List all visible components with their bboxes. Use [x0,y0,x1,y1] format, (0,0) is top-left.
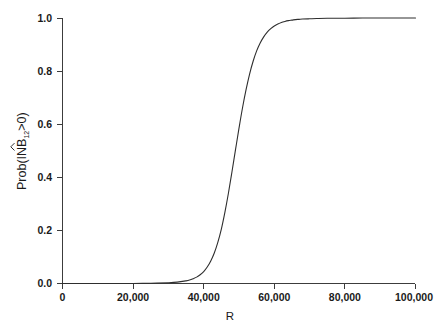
chart-figure: 1.0 0.8 0.6 0.4 0.2 0.0 0 20,000 40,000 … [0,0,446,333]
x-tick-label-1: 20,000 [117,291,149,303]
x-tick-label-2: 40,000 [188,291,220,303]
y-axis-title-subscript: 12 [23,131,30,139]
x-tick-label-4: 80,000 [329,291,361,303]
x-axis-title: R [226,310,234,322]
y-tick-label-4: 0.8 [37,65,52,77]
x-tick-label-0: 0 [60,291,66,303]
y-tick-label-5: 1.0 [37,12,52,24]
y-tick-label-3: 0.6 [37,118,52,130]
y-tick-label-0: 0.0 [37,277,52,289]
y-tick-label-2: 0.4 [37,171,52,183]
y-axis-title-suffix: >0) [15,112,29,130]
y-axis-title-prefix: Prob(IN [15,147,29,190]
svg-text:Prob(INB12>0): Prob(INB12>0) [15,112,30,190]
x-tick-label-5: 100,000 [395,291,433,303]
y-axis-title-hatted: B [15,139,29,147]
y-tick-label-1: 0.2 [37,224,52,236]
probability-curve-chart: 1.0 0.8 0.6 0.4 0.2 0.0 0 20,000 40,000 … [0,0,446,333]
x-tick-label-3: 60,000 [258,291,290,303]
